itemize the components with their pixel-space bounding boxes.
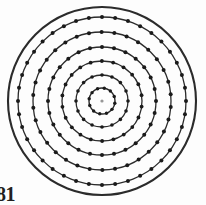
ring-1-node	[168, 148, 172, 152]
ring-6-node	[88, 97, 91, 100]
ring-6-node	[113, 95, 116, 98]
ring-3-node	[112, 152, 116, 156]
ring-2-node	[169, 105, 173, 109]
ring-6-node	[113, 102, 116, 105]
ring-5-node	[74, 99, 78, 103]
ring-4-node	[61, 105, 65, 109]
ring-1-node	[51, 31, 55, 35]
ring-2-node	[53, 48, 57, 52]
ring-2-node	[38, 130, 42, 134]
ring-5-node	[119, 118, 123, 122]
ring-3-node	[134, 141, 138, 145]
concentric-ring-chart	[0, 0, 206, 205]
ring-4-node	[100, 139, 104, 143]
ring-2-node	[75, 35, 79, 39]
ring-1-node	[62, 24, 66, 28]
ring-6-node	[109, 89, 112, 92]
ring-4-node	[140, 93, 144, 97]
figure-caption: 81	[0, 184, 15, 204]
ring-1-node	[126, 19, 130, 23]
ring-3-node	[149, 122, 153, 126]
ring-2-node	[45, 58, 49, 62]
ring-5-node	[90, 75, 94, 79]
ring-1-node	[25, 61, 29, 65]
ring-5-node	[100, 125, 104, 129]
ring-4-node	[122, 65, 126, 69]
ring-1-node	[87, 16, 91, 20]
ring-2-node	[136, 40, 140, 44]
ring-2-node	[63, 41, 67, 45]
ring-1-node	[17, 86, 21, 90]
ring-1-node	[62, 174, 66, 178]
ring-3-node	[51, 122, 55, 126]
ring-1-node	[32, 148, 36, 152]
ring-4-node	[60, 94, 64, 98]
ring-2-node	[112, 31, 116, 35]
ring-2-node	[162, 129, 166, 133]
ring-4-node	[89, 61, 93, 65]
ring-6-node	[92, 109, 95, 112]
ring-4-node	[64, 83, 68, 87]
ring-4-node	[122, 133, 126, 137]
ring-2-node	[100, 30, 104, 34]
ring-1-node	[17, 112, 21, 116]
ring-4-node	[78, 66, 82, 70]
ring-2-node	[54, 150, 58, 154]
ring-6-node	[98, 112, 101, 115]
ring-3-node	[153, 87, 157, 91]
ring-1-node	[183, 86, 187, 90]
ring-3-node	[77, 50, 81, 54]
ring-4-node	[89, 138, 93, 142]
ring-2-node	[169, 92, 173, 96]
ring-1-node	[20, 125, 24, 129]
ring-1-node	[126, 179, 130, 183]
ring-3-node	[142, 133, 146, 137]
ring-5-node	[110, 123, 114, 127]
ring-1-node	[113, 182, 117, 186]
ring-4-node	[140, 105, 144, 109]
ring-1-node	[41, 40, 45, 44]
ring-2-node	[155, 57, 159, 61]
ring-2-node	[45, 141, 49, 145]
ring-1-node	[184, 99, 188, 103]
ring-1-node	[180, 125, 184, 129]
ring-3-node	[88, 46, 92, 50]
ring-6-node	[103, 87, 106, 90]
ring-1-node	[175, 137, 179, 141]
ring-2-node	[31, 93, 35, 97]
ring-4-node	[64, 116, 68, 120]
ring-4-node	[136, 82, 140, 86]
ring-3-node	[58, 133, 62, 137]
ring-3-node	[134, 57, 138, 61]
ring-2-node	[34, 80, 38, 84]
ring-3-node	[149, 76, 153, 80]
ring-3-node	[123, 50, 127, 54]
ring-2-node	[125, 35, 129, 39]
ring-5-node	[100, 73, 104, 77]
ring-6-node	[88, 104, 91, 107]
ring-5-node	[124, 109, 128, 113]
ring-1-node	[159, 40, 163, 44]
ring-5-node	[76, 109, 80, 113]
ring-4-node	[70, 125, 74, 129]
ring-2-node	[166, 80, 170, 84]
ring-4-node	[130, 73, 134, 77]
ring-4-node	[111, 137, 115, 141]
ring-1-node	[138, 174, 142, 178]
ring-2-node	[146, 48, 150, 52]
ring-2-node	[75, 163, 79, 167]
ring-5-node	[124, 89, 128, 93]
ring-1-node	[175, 61, 179, 65]
ring-1-node	[149, 167, 153, 171]
ring-2-node	[88, 167, 92, 171]
ring-1-node	[100, 183, 104, 187]
ring-4-node	[111, 61, 115, 65]
ring-1-node	[113, 16, 117, 20]
ring-2-node	[155, 140, 159, 144]
ring-3-node	[66, 141, 70, 145]
ring-2-node	[113, 167, 117, 171]
ring-3-node	[88, 152, 92, 156]
ring-2-node	[162, 68, 166, 72]
ring-2-node	[34, 118, 38, 122]
ring-5-node	[90, 123, 94, 127]
